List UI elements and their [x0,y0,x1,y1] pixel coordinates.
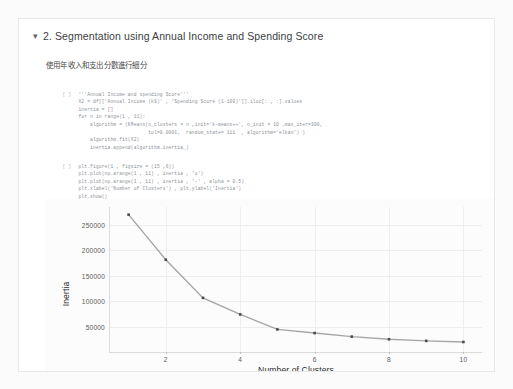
cell-run-prompt[interactable]: [ ] [62,163,78,171]
series-line [129,215,464,342]
x-axis-tick-label: 6 [313,356,317,363]
data-point-marker [462,341,465,344]
x-axis-tick-mark [463,352,464,354]
data-point-marker [127,213,130,216]
y-axis-label: Inertia [61,282,71,307]
y-axis-tick-label: 250000 [82,221,105,228]
cell-run-prompt[interactable]: [ ] [62,91,78,99]
y-axis-tick-label: 50000 [86,323,105,330]
data-point-marker [202,297,205,300]
chevron-down-icon[interactable]: ▾ [27,32,43,41]
data-point-marker [276,328,279,331]
x-axis-tick-label: 4 [238,356,242,363]
x-axis-tick-mark [389,352,390,354]
x-axis-label: Number of Clusters [110,365,482,372]
screenshot-root: ▾ 2. Segmentation using Annual Income an… [0,0,513,389]
plot-area: Number of Clusters 500001000001500002000… [109,207,482,353]
code-cell-1-source[interactable]: '''Annual Income and spending Score''' X… [78,91,322,152]
y-axis-tick-label: 150000 [82,272,105,279]
data-point-marker [388,338,391,341]
data-point-marker [239,313,242,316]
x-axis-tick-mark [166,352,167,354]
code-cell-2-source[interactable]: plt.figure(1 , figsize = (15 ,6)) plt.pl… [78,163,244,201]
x-axis-tick-label: 2 [164,356,168,363]
x-axis-tick-label: 10 [460,356,468,363]
data-point-marker [351,335,354,338]
section-note-text: 使用年收入和支出分數進行細分 [46,59,147,70]
x-axis-tick-mark [240,352,241,354]
code-cell-1[interactable]: [ ]'''Annual Income and spending Score''… [45,83,323,159]
elbow-curve-series [110,207,482,352]
x-axis-tick-mark [315,352,316,354]
data-point-marker [313,332,316,335]
y-axis-tick-label: 100000 [82,298,105,305]
notebook-section-card: ▾ 2. Segmentation using Annual Income an… [18,18,495,372]
chart-output: Inertia Number of Clusters 5000010000015… [46,199,494,372]
y-axis-tick-label: 200000 [82,247,105,254]
data-point-marker [165,258,168,261]
x-axis-tick-label: 8 [387,356,391,363]
data-point-marker [425,340,428,343]
section-header[interactable]: ▾ 2. Segmentation using Annual Income an… [19,27,494,45]
page-title: 2. Segmentation using Annual Income and … [43,30,323,42]
